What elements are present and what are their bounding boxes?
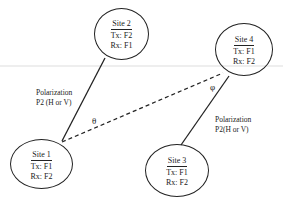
site-3-node: Site 3 Tx: F1 Rx: F2	[145, 144, 209, 197]
site-name: Site 1	[31, 150, 51, 161]
site-tx: Tx: F2	[95, 31, 148, 41]
site-name: Site 2	[111, 19, 131, 30]
site-rx: Rx: F1	[95, 41, 148, 51]
polarization-label-site3-site4: Polarization P2(H or V)	[215, 115, 251, 135]
link-site1-site4-interference	[62, 73, 223, 142]
phi-angle-label: φ	[210, 82, 215, 92]
site-4-node: Site 4 Tx: F1 Rx: F2	[215, 23, 273, 76]
site-tx: Tx: F1	[216, 47, 272, 57]
polarization-label-site1-site2: Polarization P2 (H or V)	[36, 88, 72, 108]
label-line-1: Polarization	[36, 88, 72, 98]
theta-angle-label: θ	[92, 116, 96, 126]
site-rx: Rx: F2	[146, 178, 208, 188]
site-name: Site 4	[234, 35, 254, 46]
site-name: Site 3	[167, 156, 187, 167]
label-line-2: P2(H or V)	[215, 125, 251, 135]
site-1-node: Site 1 Tx: F1 Rx: F2	[10, 139, 73, 189]
interference-geometry-diagram: Site 2 Tx: F2 Rx: F1 Site 4 Tx: F1 Rx: F…	[0, 0, 283, 203]
site-rx: Rx: F2	[11, 172, 72, 182]
site-tx: Tx: F1	[146, 168, 208, 178]
label-line-1: Polarization	[215, 115, 251, 125]
label-line-2: P2 (H or V)	[36, 98, 72, 108]
site-rx: Rx: F2	[216, 57, 272, 67]
site-2-node: Site 2 Tx: F2 Rx: F1	[94, 8, 149, 60]
site-tx: Tx: F1	[11, 162, 72, 172]
